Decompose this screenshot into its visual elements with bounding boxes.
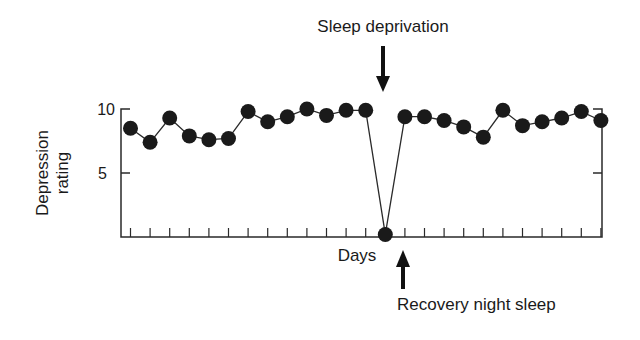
chart-canvas: 10 5 Depression rating Days Sleep depriv… (0, 0, 640, 340)
data-point (593, 113, 608, 128)
data-point (260, 114, 275, 129)
data-point (358, 103, 373, 118)
data-point (201, 132, 216, 147)
data-point (299, 102, 314, 117)
data-point (162, 110, 177, 125)
down-arrow-icon (376, 46, 390, 92)
data-point (574, 104, 589, 119)
annotation-recovery-night-sleep: Recovery night sleep (397, 295, 556, 314)
ytick-label-10: 10 (97, 101, 115, 118)
data-point (221, 131, 236, 146)
data-point (495, 103, 510, 118)
data-point (515, 118, 530, 133)
data-point (182, 128, 197, 143)
data-point (417, 109, 432, 124)
annotation-sleep-deprivation: Sleep deprivation (317, 17, 448, 36)
up-arrow-icon (396, 250, 410, 289)
y-axis-label-line2: rating (53, 152, 72, 195)
ytick-label-5: 5 (98, 165, 107, 182)
data-point (437, 113, 452, 128)
y-axis-label: Depression rating (33, 130, 72, 216)
data-point (397, 109, 412, 124)
data-point (554, 110, 569, 125)
data-point (123, 121, 138, 136)
data-point (476, 130, 491, 145)
data-point (319, 108, 334, 123)
data-markers (123, 102, 608, 242)
series-line (131, 109, 601, 234)
axes (121, 109, 602, 237)
data-point (378, 227, 393, 242)
x-axis-ticks (131, 228, 601, 237)
data-point (143, 135, 158, 150)
data-point (456, 119, 471, 134)
x-axis-label: Days (338, 246, 377, 265)
data-point (339, 103, 354, 118)
y-axis-label-line1: Depression (33, 130, 52, 216)
data-point (241, 104, 256, 119)
plot-frame (121, 109, 602, 237)
data-point (280, 109, 295, 124)
data-point (535, 114, 550, 129)
